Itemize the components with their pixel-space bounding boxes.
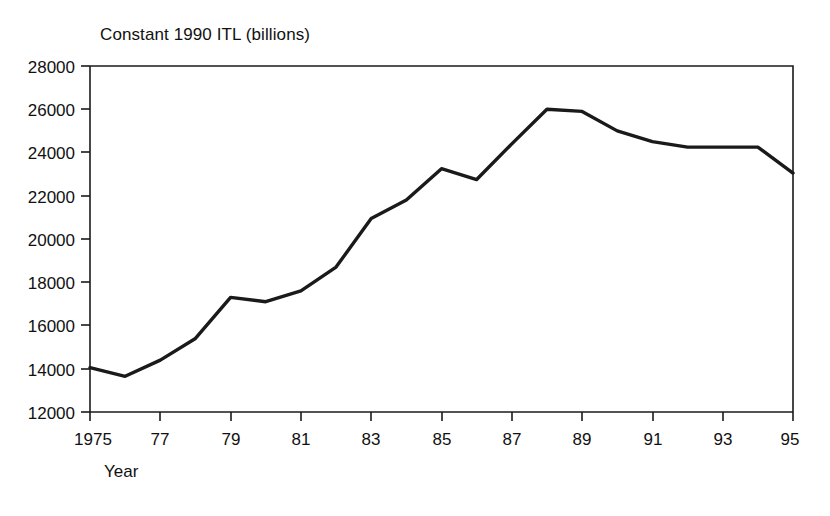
- y-tick-label: 26000: [28, 101, 75, 120]
- x-tick-label: 79: [222, 430, 241, 449]
- data-series-line: [90, 109, 793, 376]
- x-tick-label: 95: [781, 430, 800, 449]
- y-tick-label: 14000: [28, 361, 75, 380]
- plot-area: 28000 26000 24000 22000 20000 18000 1600…: [0, 0, 830, 516]
- y-tick-label: 16000: [28, 317, 75, 336]
- y-tick-label: 22000: [28, 188, 75, 207]
- y-axis-tick-labels: 28000 26000 24000 22000 20000 18000 1600…: [28, 58, 75, 423]
- y-axis-ticks: [81, 66, 90, 412]
- x-tick-label: 89: [573, 430, 592, 449]
- x-axis-label: Year: [104, 462, 138, 482]
- x-tick-label: 1975: [74, 430, 112, 449]
- x-tick-label: 93: [714, 430, 733, 449]
- y-tick-label: 28000: [28, 58, 75, 77]
- y-tick-label: 20000: [28, 231, 75, 250]
- y-tick-label: 12000: [28, 404, 75, 423]
- x-tick-label: 77: [151, 430, 170, 449]
- x-axis-tick-labels: 1975 77 79 81 83 85 87 89 91 93 95: [74, 430, 799, 449]
- y-tick-label: 18000: [28, 274, 75, 293]
- x-axis-ticks: [90, 412, 793, 421]
- y-tick-label: 24000: [28, 144, 75, 163]
- x-tick-label: 81: [292, 430, 311, 449]
- plot-frame: [90, 66, 793, 412]
- x-tick-label: 87: [503, 430, 522, 449]
- line-chart-figure: Constant 1990 ITL (billions) 28000 26000…: [0, 0, 830, 516]
- x-tick-label: 91: [644, 430, 663, 449]
- x-tick-label: 83: [362, 430, 381, 449]
- x-tick-label: 85: [433, 430, 452, 449]
